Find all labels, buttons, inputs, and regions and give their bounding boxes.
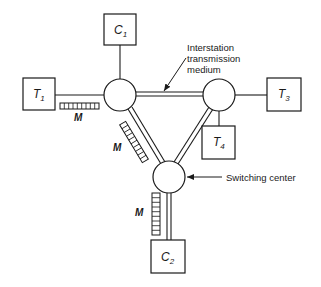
terminal-t3: T3 (267, 78, 301, 111)
medium-arrow-icon (164, 58, 186, 91)
multiplexer-label-3: M (135, 207, 144, 218)
switching-node-right (203, 79, 235, 111)
concentrator-c1: C1 (104, 14, 136, 45)
annotation-switching-center: Switching center (187, 172, 296, 183)
terminal-t4: T4 (202, 126, 235, 159)
multiplexer-label-2: M (113, 142, 122, 153)
terminal-t1: T1 (23, 78, 55, 110)
network-diagram: C1 T1 T3 T4 C2 M M (0, 0, 321, 287)
link-top-horizontal (136, 92, 203, 96)
medium-label-line2: transmission (187, 53, 240, 64)
concentrator-c2: C2 (151, 240, 185, 273)
switching-center-label: Switching center (226, 172, 296, 183)
medium-label-line1: Interstation (187, 42, 234, 53)
multiplexer-label-1: M (74, 112, 83, 123)
multiplexer-bar-vertical (152, 193, 160, 235)
multiplexer-bar-horizontal (60, 103, 99, 109)
medium-label-line3: medium (187, 64, 221, 75)
switching-node-bottom (153, 161, 185, 193)
switching-node-left (104, 79, 136, 111)
link-bottom-vertical (167, 193, 171, 240)
